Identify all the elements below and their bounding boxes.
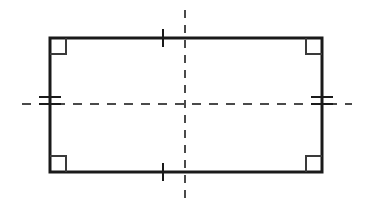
- right-angle-marker-top-right: [306, 38, 322, 54]
- geometry-diagram: [0, 0, 368, 219]
- right-angle-marker-top-left: [50, 38, 66, 54]
- right-angle-marker-bottom-right: [306, 156, 322, 172]
- right-angle-marker-bottom-left: [50, 156, 66, 172]
- rectangle-symmetry-figure: [0, 0, 368, 219]
